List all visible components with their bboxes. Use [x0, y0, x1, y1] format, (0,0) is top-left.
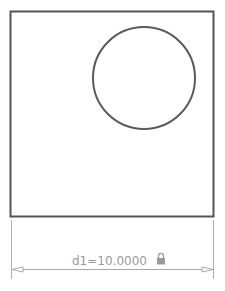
arrowhead-right: [202, 267, 213, 272]
outer-square[interactable]: [11, 12, 214, 217]
arrowhead-left: [12, 267, 23, 272]
sketch-canvas[interactable]: d1=10.0000: [0, 0, 225, 291]
inner-circle[interactable]: [93, 27, 195, 129]
lock-icon: [157, 253, 165, 264]
dimension-label[interactable]: d1=10.0000: [72, 254, 147, 268]
